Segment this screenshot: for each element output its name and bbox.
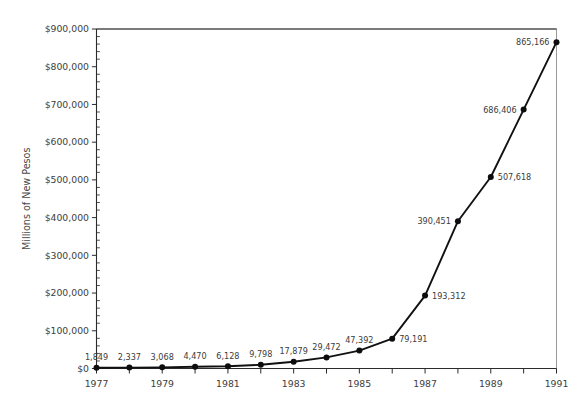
data-point-marker bbox=[192, 364, 198, 370]
data-point-marker bbox=[258, 362, 264, 368]
x-axis-tick-label: 1987 bbox=[413, 378, 437, 389]
data-point-label: 3,068 bbox=[151, 352, 174, 362]
data-point-marker bbox=[356, 348, 362, 354]
data-point-label: 9,798 bbox=[249, 349, 272, 359]
data-point-marker bbox=[521, 107, 527, 113]
data-point-marker bbox=[324, 354, 330, 360]
data-point-label: 17,879 bbox=[279, 346, 307, 356]
y-axis-tick-label: $500,000 bbox=[45, 174, 89, 185]
y-axis-tick-label: $800,000 bbox=[45, 61, 89, 72]
data-point-label: 865,166 bbox=[516, 37, 549, 47]
data-point-label: 6,128 bbox=[216, 351, 239, 361]
data-point-label: 193,312 bbox=[432, 291, 465, 301]
x-axis-tick-label: 1979 bbox=[150, 378, 174, 389]
y-axis-tick-label: $200,000 bbox=[45, 287, 89, 298]
data-point-label: 47,392 bbox=[345, 335, 373, 345]
y-axis-tick-label: $100,000 bbox=[45, 325, 89, 336]
y-axis-title: Millions of New Pesos bbox=[21, 148, 32, 250]
x-axis-tick-label: 1989 bbox=[479, 378, 503, 389]
data-point-label: 686,406 bbox=[483, 105, 516, 115]
y-axis-tick-label: $700,000 bbox=[45, 99, 89, 110]
chart-container: $0$100,000$200,000$300,000$400,000$500,0… bbox=[0, 0, 586, 419]
data-point-label: 29,472 bbox=[312, 342, 340, 352]
data-point-marker bbox=[554, 39, 560, 45]
y-axis-tick-label: $0 bbox=[77, 363, 89, 374]
y-axis-tick-label: $300,000 bbox=[45, 250, 89, 261]
data-point-label: 507,618 bbox=[498, 172, 531, 182]
y-axis-title-text: Millions of New Pesos bbox=[21, 148, 32, 250]
y-axis-tick-label: $600,000 bbox=[45, 136, 89, 147]
data-point-marker bbox=[94, 365, 100, 371]
data-point-label: 2,337 bbox=[118, 352, 141, 362]
y-axis-tick-label: $400,000 bbox=[45, 212, 89, 223]
data-point-label: 4,470 bbox=[183, 351, 206, 361]
x-axis-tick-label: 1977 bbox=[85, 378, 109, 389]
data-point-marker bbox=[225, 363, 231, 369]
x-axis-tick-label: 1991 bbox=[545, 378, 569, 389]
data-point-marker bbox=[455, 218, 461, 224]
data-point-marker bbox=[159, 364, 165, 370]
data-point-marker bbox=[488, 174, 494, 180]
line-chart: $0$100,000$200,000$300,000$400,000$500,0… bbox=[0, 0, 586, 419]
x-axis-tick-label: 1985 bbox=[348, 378, 372, 389]
data-point-marker bbox=[389, 336, 395, 342]
data-point-label: 1,849 bbox=[85, 352, 108, 362]
x-axis-tick-label: 1983 bbox=[282, 378, 306, 389]
data-point-marker bbox=[422, 293, 428, 299]
data-point-label: 390,451 bbox=[417, 216, 450, 226]
data-point-marker bbox=[126, 365, 132, 371]
data-point-marker bbox=[291, 359, 297, 365]
data-point-label: 79,191 bbox=[399, 334, 427, 344]
x-axis-tick-label: 1981 bbox=[216, 378, 240, 389]
y-axis-tick-label: $900,000 bbox=[45, 23, 89, 34]
